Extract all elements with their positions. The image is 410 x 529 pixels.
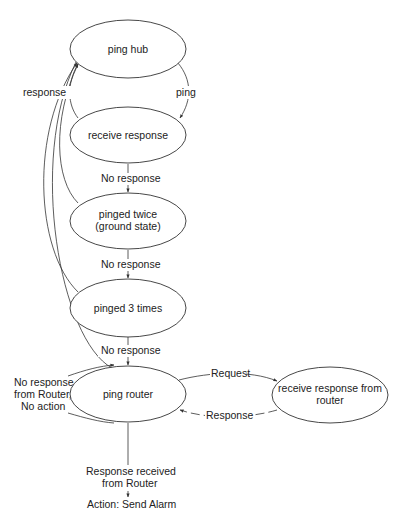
edge-label-no-response-router-2: from Router, [14,388,72,400]
node-pinged-3-times: pinged 3 times [70,279,186,337]
node-label-line1: receive response from [278,382,382,394]
node-label: ping hub [108,43,148,55]
node-label-line2: (ground state) [95,220,160,232]
edge-label-ping: ping [176,86,196,98]
node-label: receive response [88,129,168,141]
edge-label-response: response [23,86,66,98]
node-label-line2: router [316,394,344,406]
state-diagram: ping response No response No response No… [0,0,410,529]
edge-label-request: Request [211,367,250,379]
edge-label-no-response-3: No response [101,344,161,356]
edge-label-response-received-1: Response received [86,465,176,477]
node-pinged-twice: pinged twice (ground state) [70,193,186,249]
edge-label-response-received-2: from Router [102,477,158,489]
edge-label-no-response-router-3: No action [21,400,66,412]
node-receive-response-from-router: receive response from router [272,367,388,423]
node-label: pinged 3 times [94,302,162,314]
node-label: ping router [103,388,154,400]
edge-label-no-response-2: No response [101,258,161,270]
node-ping-router: ping router [70,366,186,422]
node-ping-hub: ping hub [70,20,186,78]
node-label-line1: pinged twice [99,208,158,220]
edge-label-response-received-3: Action: Send Alarm [87,498,177,510]
edge-label-router-response: Response [206,409,253,421]
edge-label-no-response-router-1: No response [14,376,74,388]
edge-label-no-response-1: No response [101,172,161,184]
node-receive-response: receive response [70,107,186,163]
